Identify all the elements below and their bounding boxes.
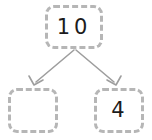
part-right-value: 4 — [111, 100, 126, 121]
part-box-left-empty[interactable] — [8, 88, 58, 133]
arrow-line-right — [76, 50, 114, 82]
arrow-whole-to-right — [76, 50, 121, 85]
arrow-line-left — [36, 50, 74, 82]
whole-value: 10 — [57, 17, 92, 38]
part-box-right[interactable]: 4 — [94, 88, 144, 133]
whole-box[interactable]: 10 — [45, 5, 103, 49]
arrow-whole-to-left — [29, 50, 74, 85]
number-bond-diagram: 10 4 — [0, 0, 152, 140]
